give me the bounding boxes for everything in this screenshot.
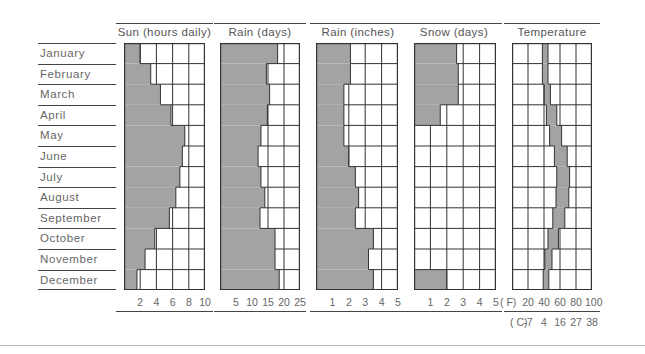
data-bar [316, 64, 350, 85]
tick-label: 4 [477, 296, 483, 308]
tick-label: 10 [246, 296, 258, 308]
data-bar [124, 249, 145, 270]
month-label: December [38, 270, 116, 291]
month-label: November [38, 249, 116, 270]
data-bar [553, 208, 565, 229]
panel-grid-snow-days [414, 43, 496, 290]
month-label: January [38, 43, 116, 64]
tick-label: 25 [294, 296, 306, 308]
data-bar [414, 84, 458, 105]
page-divider [0, 345, 645, 346]
data-bar [220, 84, 270, 105]
data-bar [220, 167, 261, 188]
data-bar [124, 187, 176, 208]
tick-label-celsius: 16 [554, 316, 566, 328]
tick-label: 3 [460, 296, 466, 308]
data-bar [220, 125, 261, 146]
data-bar [546, 105, 556, 126]
data-bar [220, 249, 275, 270]
tick-label: 10 [199, 296, 211, 308]
panel-title-sun: Sun (hours daily) [116, 23, 213, 41]
tick-label: 4 [379, 296, 385, 308]
data-bar [414, 43, 457, 64]
data-bar [316, 43, 350, 64]
data-bar [414, 270, 447, 291]
data-bar [545, 249, 552, 270]
data-bar [548, 228, 558, 249]
data-bar [124, 43, 140, 64]
tick-label: 4 [153, 296, 159, 308]
month-label: February [38, 64, 116, 85]
tick-label: 60 [554, 296, 566, 308]
tick-label-celsius: -7 [523, 316, 532, 328]
tick-label: 20 [278, 296, 290, 308]
month-label: July [38, 167, 116, 188]
data-bar [542, 64, 548, 85]
data-bar [316, 208, 355, 229]
panel-grid-sun [124, 43, 205, 290]
data-bar [124, 228, 155, 249]
tick-label-celsius: 27 [570, 316, 582, 328]
data-bar [316, 105, 344, 126]
panel-bottom-rule [116, 311, 213, 312]
data-bar [316, 167, 355, 188]
data-bar [124, 167, 180, 188]
data-bar [220, 228, 275, 249]
data-bar [124, 105, 171, 126]
tick-label: 5 [233, 296, 239, 308]
data-bar [220, 146, 258, 167]
unit-fahrenheit-label: ( F) [500, 296, 516, 308]
data-bar [124, 125, 185, 146]
data-bar [220, 43, 278, 64]
panel-bottom-rule [214, 311, 306, 312]
panel-grid-rain-days [220, 43, 300, 290]
data-bar [316, 228, 373, 249]
tick-label: 5 [493, 296, 499, 308]
panel-grid-temperature [512, 43, 592, 290]
tick-label: 1 [427, 296, 433, 308]
data-bar [220, 105, 267, 126]
tick-label-celsius: 4 [541, 316, 547, 328]
data-bar [220, 64, 266, 85]
data-bar [316, 146, 349, 167]
panel-title-snow-days: Snow (days) [406, 23, 502, 41]
tick-label: 20 [522, 296, 534, 308]
month-label: September [38, 208, 116, 229]
month-label: April [38, 105, 116, 126]
data-bar [542, 43, 548, 64]
data-bar [550, 125, 562, 146]
panel-bottom-rule [504, 311, 600, 312]
data-bar [220, 208, 260, 229]
month-label: October [38, 228, 116, 249]
data-bar [544, 84, 550, 105]
tick-label-celsius: 38 [586, 316, 598, 328]
tick-label: 5 [395, 296, 401, 308]
data-bar [220, 270, 279, 291]
data-bar [414, 64, 458, 85]
panel-title-rain-inches: Rain (inches) [310, 23, 406, 41]
data-bar [124, 146, 182, 167]
panel-title-temperature: Temperature [504, 23, 600, 41]
tick-label: 2 [137, 296, 143, 308]
data-bar [554, 146, 567, 167]
tick-label: 8 [186, 296, 192, 308]
data-bar [316, 187, 359, 208]
tick-label: 2 [444, 296, 450, 308]
data-bar [220, 187, 265, 208]
tick-label: 80 [570, 296, 582, 308]
data-bar [124, 64, 151, 85]
data-bar [316, 270, 373, 291]
data-bar [557, 167, 570, 188]
month-label: June [38, 146, 116, 167]
tick-label: 1 [329, 296, 335, 308]
data-bar [124, 208, 169, 229]
panel-grid-rain-inches [316, 43, 398, 290]
tick-label: 2 [346, 296, 352, 308]
data-bar [124, 270, 137, 291]
data-bar [414, 105, 440, 126]
tick-label: 3 [362, 296, 368, 308]
panel-title-rain-days: Rain (days) [214, 23, 306, 41]
month-label: May [38, 125, 116, 146]
data-bar [543, 270, 549, 291]
data-bar [124, 84, 160, 105]
